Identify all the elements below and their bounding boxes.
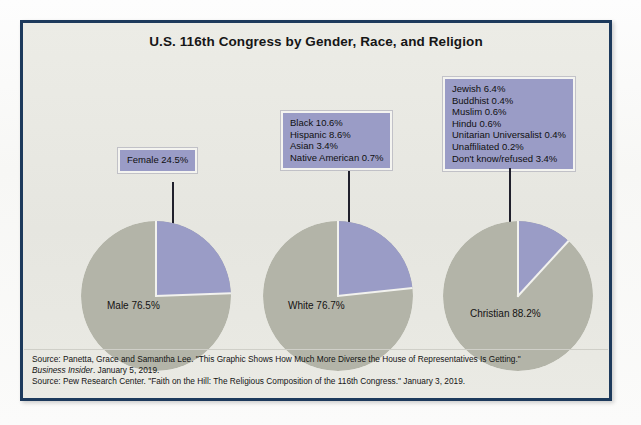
- legend-religion-item-0: Jewish 6.4%: [452, 83, 566, 95]
- legend-race-item-0: Black 10.6%: [290, 117, 383, 129]
- legend-gender-item-0: Female 24.5%: [127, 154, 188, 166]
- pie-religion-separator-start: [517, 221, 519, 297]
- source-divider: [24, 349, 608, 350]
- page-title: U.S. 116th Congress by Gender, Race, and…: [23, 34, 609, 49]
- legend-religion-item-1: Buddhist 0.4%: [452, 95, 566, 107]
- source-line-3: Source: Pew Research Center. "Faith on t…: [32, 376, 600, 387]
- source-line-1: Source: Panetta, Grace and Samantha Lee.…: [32, 354, 600, 365]
- pie-label-gender: Male 76.5%: [107, 300, 160, 311]
- legend-religion-item-6: Don't know/refused 3.4%: [452, 153, 566, 165]
- pie-label-race: White 76.7%: [288, 300, 345, 311]
- legend-religion-item-2: Muslim 0.6%: [452, 106, 566, 118]
- legend-religion-item-3: Hindu 0.6%: [452, 118, 566, 130]
- pie-label-religion: Christian 88.2%: [470, 308, 541, 319]
- source-notes: Source: Panetta, Grace and Samantha Lee.…: [32, 354, 600, 388]
- pie-gender-separator-start: [155, 221, 157, 297]
- legend-race-item-3: Native American 0.7%: [290, 152, 383, 164]
- legend-race-item-2: Asian 3.4%: [290, 140, 383, 152]
- legend-religion-item-5: Unaffiliated 0.2%: [452, 141, 566, 153]
- source-line-2-date: . January 5, 2019.: [93, 365, 159, 375]
- legend-gender: Female 24.5%: [118, 148, 197, 173]
- legend-religion: Jewish 6.4% Buddhist 0.4% Muslim 0.6% Hi…: [443, 77, 575, 171]
- legend-race-item-1: Hispanic 8.6%: [290, 129, 383, 141]
- figure-frame: U.S. 116th Congress by Gender, Race, and…: [20, 20, 612, 401]
- legend-race: Black 10.6% Hispanic 8.6% Asian 3.4% Nat…: [281, 111, 392, 170]
- source-publication: Business Insider: [32, 365, 93, 375]
- pie-race-separator-start: [337, 221, 339, 297]
- source-line-2: Business Insider. January 5, 2019.: [32, 365, 600, 376]
- legend-religion-item-4: Unitarian Universalist 0.4%: [452, 129, 566, 141]
